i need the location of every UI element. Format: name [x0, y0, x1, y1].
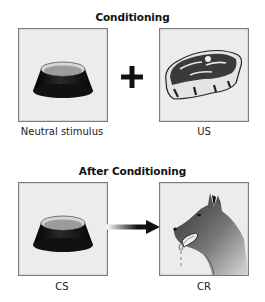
dog-bowl-icon [19, 29, 107, 121]
arrow-right-icon [106, 219, 160, 235]
dog-bowl-icon [19, 183, 107, 275]
cr-label: CR [144, 281, 264, 292]
conditioning-title: Conditioning [0, 11, 265, 23]
plus-icon [120, 65, 144, 89]
neutral-stimulus-panel [18, 28, 108, 122]
neutral-stimulus-label: Neutral stimulus [2, 126, 122, 137]
after-conditioning-title: After Conditioning [0, 165, 265, 177]
us-panel [159, 28, 249, 122]
salivating-dog-icon [160, 183, 248, 275]
steak-icon [160, 29, 248, 121]
cs-label: CS [2, 281, 122, 292]
cr-panel [159, 182, 249, 276]
cs-panel [18, 182, 108, 276]
us-label: US [144, 126, 264, 137]
